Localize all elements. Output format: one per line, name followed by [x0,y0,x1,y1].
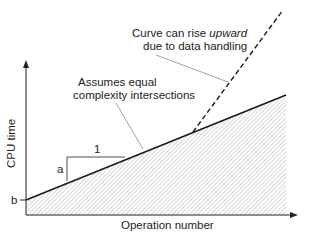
b-label: b [11,194,17,206]
leader-line-2 [156,55,228,82]
y-axis-arrow-icon [23,60,29,68]
annotation-upward-line2: due to data handling [143,40,247,52]
cpu-time-diagram: b 1 a Assumes equal complexity intersect… [0,0,311,237]
annotation-equal-complexity-line1: Assumes equal [78,76,157,88]
slope-rise-label: a [57,163,64,175]
slope-run-label: 1 [94,143,100,155]
annotation-upward-line1: Curve can rise upward [132,27,248,39]
leader-line-1 [116,103,143,149]
y-axis-label: CPU time [5,119,17,168]
x-axis-label: Operation number [121,219,214,231]
x-axis-arrow-icon [290,212,298,218]
annotation-equal-complexity-line2: complexity intersections [73,89,195,101]
hatched-area [26,95,286,215]
